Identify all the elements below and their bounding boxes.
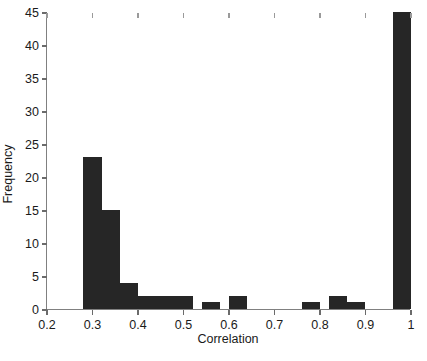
y-tick-label: 40: [25, 39, 39, 53]
y-axis-title-wrapper: Frequency: [14, 13, 15, 310]
x-tick-label: 0.2: [38, 318, 55, 332]
x-tick-label: 0.8: [311, 318, 328, 332]
x-tick-mark: [274, 310, 275, 315]
x-tick-mark-top: [183, 13, 184, 18]
x-tick-mark-top: [46, 13, 47, 18]
histogram-bar: [138, 296, 156, 309]
x-tick-label: 1: [408, 318, 415, 332]
y-tick-label: 35: [25, 72, 39, 86]
x-tick-mark-top: [228, 13, 229, 18]
plot-area: 051015202530354045 0.20.30.40.50.60.70.8…: [46, 13, 410, 310]
y-axis-title: Frequency: [1, 144, 15, 203]
histogram-bar: [229, 296, 247, 309]
x-axis-title: Correlation: [46, 332, 410, 346]
y-tick-mark: [42, 111, 47, 112]
x-tick-label: 0.6: [220, 318, 237, 332]
histogram-bar: [174, 296, 192, 309]
y-tick-label: 20: [25, 171, 39, 185]
histogram-bar: [120, 283, 138, 309]
x-tick-mark: [183, 310, 184, 315]
histogram-bar: [156, 296, 174, 309]
y-tick-label: 5: [32, 270, 39, 284]
x-tick-mark: [228, 310, 229, 315]
x-tick-label: 0.7: [266, 318, 283, 332]
y-tick-label: 10: [25, 237, 39, 251]
histogram-bar: [102, 210, 120, 309]
y-tick-mark: [42, 276, 47, 277]
x-tick-mark: [365, 310, 366, 315]
y-tick-mark: [42, 144, 47, 145]
x-tick-mark: [92, 310, 93, 315]
plot-inner: [47, 13, 410, 309]
histogram-bar: [393, 12, 411, 309]
x-tick-mark-top: [319, 13, 320, 18]
x-tick-label: 0.4: [129, 318, 146, 332]
y-tick-label: 45: [25, 6, 39, 20]
x-tick-mark-top: [274, 13, 275, 18]
histogram-bar: [83, 157, 101, 309]
histogram-bar: [202, 302, 220, 309]
histogram-bar: [302, 302, 320, 309]
y-tick-mark: [42, 177, 47, 178]
x-tick-label: 0.3: [84, 318, 101, 332]
x-tick-mark: [410, 310, 411, 315]
x-tick-mark: [319, 310, 320, 315]
y-tick-mark: [42, 45, 47, 46]
x-tick-label: 0.5: [175, 318, 192, 332]
y-tick-label: 30: [25, 105, 39, 119]
histogram-bar: [347, 302, 365, 309]
y-tick-mark: [42, 243, 47, 244]
y-tick-mark: [42, 78, 47, 79]
x-tick-mark: [137, 310, 138, 315]
histogram-bar: [329, 296, 347, 309]
y-tick-label: 0: [32, 303, 39, 317]
x-tick-label: 0.9: [357, 318, 374, 332]
histogram-figure: 051015202530354045 0.20.30.40.50.60.70.8…: [0, 0, 427, 361]
x-tick-mark-top: [137, 13, 138, 18]
x-tick-mark: [46, 310, 47, 315]
x-tick-mark-top: [410, 13, 411, 18]
x-tick-mark-top: [365, 13, 366, 18]
y-tick-label: 25: [25, 138, 39, 152]
y-tick-mark: [42, 210, 47, 211]
x-tick-mark-top: [92, 13, 93, 18]
y-tick-label: 15: [25, 204, 39, 218]
